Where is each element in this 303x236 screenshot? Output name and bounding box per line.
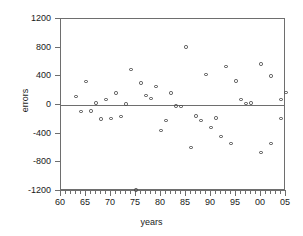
x-axis-minor-tick xyxy=(180,191,181,194)
x-axis-minor-tick xyxy=(175,191,176,194)
data-point xyxy=(74,95,77,98)
data-point xyxy=(149,97,152,100)
x-axis-minor-tick xyxy=(270,191,271,194)
data-point xyxy=(259,151,262,154)
x-axis-major-tick xyxy=(210,191,211,196)
data-point xyxy=(89,109,92,112)
x-axis-major-tick xyxy=(110,191,111,196)
x-axis-tick-label: 90 xyxy=(199,198,221,207)
x-axis-major-tick xyxy=(160,191,161,196)
x-axis-minor-tick xyxy=(275,191,276,194)
data-point xyxy=(169,91,172,94)
x-axis-tick-label: 05 xyxy=(274,198,296,207)
x-axis-minor-tick xyxy=(130,191,131,194)
data-point xyxy=(119,115,122,118)
data-point xyxy=(114,91,117,94)
x-axis-minor-tick xyxy=(65,191,66,194)
x-axis-minor-tick xyxy=(80,191,81,194)
x-axis-minor-tick xyxy=(230,191,231,194)
x-axis-minor-tick xyxy=(190,191,191,194)
data-point xyxy=(279,117,282,120)
data-point xyxy=(139,81,142,84)
plot-area xyxy=(60,18,285,190)
x-axis-tick-label: 60 xyxy=(49,198,71,207)
y-axis-tick-label: 0 xyxy=(46,100,51,109)
y-axis-title: errors xyxy=(21,71,30,131)
x-axis-minor-tick xyxy=(120,191,121,194)
x-axis-tick-label: 95 xyxy=(224,198,246,207)
data-point xyxy=(224,65,227,68)
x-axis-minor-tick xyxy=(195,191,196,194)
x-axis-minor-tick xyxy=(95,191,96,194)
y-axis-tick-label: 400 xyxy=(36,71,51,80)
data-point xyxy=(109,117,112,120)
x-axis-tick-label: 85 xyxy=(174,198,196,207)
data-point xyxy=(239,98,242,101)
zero-reference-line xyxy=(61,105,284,106)
x-axis-minor-tick xyxy=(215,191,216,194)
x-axis-major-tick xyxy=(235,191,236,196)
x-axis-minor-tick xyxy=(200,191,201,194)
x-axis-minor-tick xyxy=(150,191,151,194)
data-point xyxy=(279,98,282,101)
x-axis-major-tick xyxy=(185,191,186,196)
data-point xyxy=(144,94,147,97)
x-axis-minor-tick xyxy=(250,191,251,194)
x-axis-minor-tick xyxy=(170,191,171,194)
data-point xyxy=(259,62,262,65)
x-axis-minor-tick xyxy=(165,191,166,194)
x-axis-minor-tick xyxy=(100,191,101,194)
data-point xyxy=(154,85,157,88)
data-point xyxy=(244,102,247,105)
data-point xyxy=(104,98,107,101)
x-axis-minor-tick xyxy=(70,191,71,194)
data-point xyxy=(219,135,222,138)
data-point xyxy=(189,146,192,149)
x-axis-minor-tick xyxy=(140,191,141,194)
data-point xyxy=(194,114,197,117)
data-point xyxy=(159,129,162,132)
x-axis-minor-tick xyxy=(155,191,156,194)
x-axis-minor-tick xyxy=(105,191,106,194)
data-point xyxy=(214,116,217,119)
data-point xyxy=(94,101,97,104)
data-point xyxy=(134,188,137,191)
x-axis-major-tick xyxy=(260,191,261,196)
data-point xyxy=(129,68,132,71)
x-axis-major-tick xyxy=(135,191,136,196)
y-axis-tick-label: -1200 xyxy=(28,186,51,195)
x-axis-title: years xyxy=(0,218,303,227)
data-point xyxy=(124,102,127,105)
data-point xyxy=(269,74,272,77)
x-axis-tick-label: 70 xyxy=(99,198,121,207)
y-axis-tick-label: 800 xyxy=(36,43,51,52)
x-axis-minor-tick xyxy=(240,191,241,194)
data-point xyxy=(229,142,232,145)
y-axis-tick-label: -800 xyxy=(33,157,51,166)
data-point xyxy=(199,119,202,122)
x-axis-minor-tick xyxy=(255,191,256,194)
x-axis-tick-label: 65 xyxy=(74,198,96,207)
x-axis-minor-tick xyxy=(145,191,146,194)
y-axis-tick-label: 1200 xyxy=(31,14,51,23)
data-point xyxy=(249,101,252,104)
x-axis-minor-tick xyxy=(75,191,76,194)
data-point xyxy=(284,91,287,94)
data-point xyxy=(269,142,272,145)
data-point xyxy=(79,110,82,113)
x-axis-minor-tick xyxy=(220,191,221,194)
data-point xyxy=(204,73,207,76)
data-point xyxy=(99,117,102,120)
data-point xyxy=(84,80,87,83)
x-axis-minor-tick xyxy=(280,191,281,194)
data-point xyxy=(184,45,187,48)
x-axis-tick-label: 75 xyxy=(124,198,146,207)
x-axis-minor-tick xyxy=(245,191,246,194)
x-axis-minor-tick xyxy=(125,191,126,194)
scatter-plot-figure: errors 12008004000-400-800-1200 60657075… xyxy=(0,0,303,236)
data-point xyxy=(209,126,212,129)
x-axis-minor-tick xyxy=(225,191,226,194)
data-point xyxy=(179,105,182,108)
x-axis-minor-tick xyxy=(205,191,206,194)
x-axis-tick-label: 00 xyxy=(249,198,271,207)
